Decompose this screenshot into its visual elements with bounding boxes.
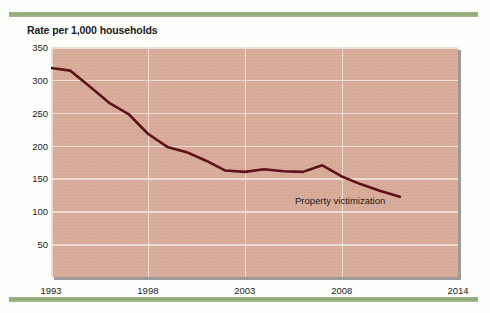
chart-figure: Rate per 1,000 households Property victi… xyxy=(0,0,490,313)
x-tick-label: 2014 xyxy=(447,285,468,296)
x-tick-label: 1998 xyxy=(137,285,158,296)
x-tick-label: 2008 xyxy=(331,285,352,296)
x-tick-label: 2003 xyxy=(234,285,255,296)
x-tick-label: 1993 xyxy=(40,285,61,296)
x-axis-tick-labels: 19931998200320082014 xyxy=(0,0,490,313)
